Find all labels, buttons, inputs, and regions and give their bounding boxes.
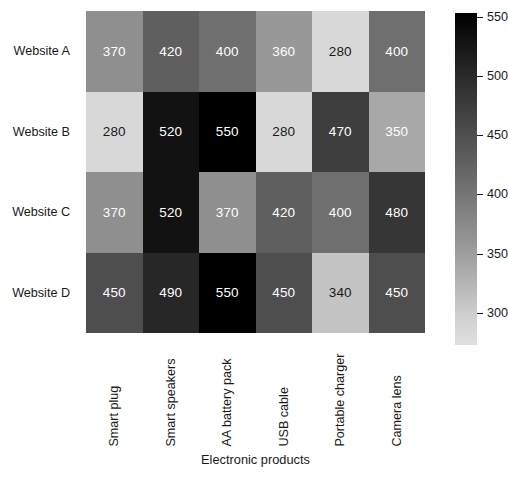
cell-value: 550 <box>216 286 239 300</box>
cell-value: 370 <box>103 206 126 220</box>
cell-value: 350 <box>385 125 408 139</box>
x-tick-label-smart-speakers: Smart speakers <box>164 359 177 447</box>
colorbar-tick-label-350: 350 <box>487 247 508 261</box>
cell-value: 280 <box>103 125 126 139</box>
heatmap-cell: 400 <box>369 11 426 92</box>
heatmap-cell: 490 <box>143 253 200 334</box>
y-axis-tick-labels: Website A Website B Website C Website D <box>0 11 78 333</box>
y-tick-label-website-c: Website C <box>0 172 78 253</box>
x-tick-slot-2: AA battery pack <box>199 337 256 447</box>
colorbar-tick-label-500: 500 <box>487 69 508 83</box>
cell-value: 470 <box>329 125 352 139</box>
x-axis-tick-labels: Smart plug Smart speakers AA battery pac… <box>86 337 425 447</box>
heatmap-cell: 340 <box>312 253 369 334</box>
colorbar-tick-label-450: 450 <box>487 128 508 142</box>
y-tick-label-website-d: Website D <box>0 253 78 334</box>
heatmap-cell: 480 <box>369 172 426 253</box>
cell-value: 280 <box>329 45 352 59</box>
cell-value: 520 <box>159 206 182 220</box>
x-tick-slot-5: Camera lens <box>369 337 426 447</box>
cell-value: 370 <box>103 45 126 59</box>
cell-value: 450 <box>103 286 126 300</box>
cell-value: 400 <box>216 45 239 59</box>
heatmap-cell: 370 <box>86 11 143 92</box>
heatmap-cell: 280 <box>312 11 369 92</box>
heatmap-cell: 400 <box>199 11 256 92</box>
x-tick-slot-1: Smart speakers <box>143 337 200 447</box>
x-tick-slot-4: Portable charger <box>312 337 369 447</box>
heatmap-cell: 370 <box>199 172 256 253</box>
colorbar-tick-label-550: 550 <box>487 10 508 24</box>
heatmap-cell: 360 <box>256 11 313 92</box>
y-tick-label-website-b: Website B <box>0 92 78 173</box>
heatmap-grid: 370 420 400 360 280 400 280 520 550 280 … <box>86 11 425 333</box>
heatmap-cell: 550 <box>199 253 256 334</box>
cell-value: 420 <box>272 206 295 220</box>
colorbar-tick-label-400: 400 <box>487 187 508 201</box>
heatmap-cell: 450 <box>369 253 426 334</box>
x-tick-slot-3: USB cable <box>256 337 313 447</box>
heatmap-cell: 280 <box>256 92 313 173</box>
colorbar: 550 500 450 400 350 300 <box>455 13 477 345</box>
x-axis-title: Electronic products <box>86 452 425 467</box>
cell-value: 450 <box>385 286 408 300</box>
colorbar-gradient <box>455 13 477 345</box>
heatmap-cell: 420 <box>143 11 200 92</box>
heatmap-cell: 350 <box>369 92 426 173</box>
cell-value: 420 <box>159 45 182 59</box>
colorbar-tick-300 <box>477 313 483 314</box>
x-tick-label-aa-battery-pack: AA battery pack <box>221 359 234 447</box>
x-tick-slot-0: Smart plug <box>86 337 143 447</box>
cell-value: 490 <box>159 286 182 300</box>
cell-value: 370 <box>216 206 239 220</box>
heatmap-cell: 470 <box>312 92 369 173</box>
x-tick-label-camera-lens: Camera lens <box>390 376 403 447</box>
colorbar-tick-450 <box>477 135 483 136</box>
cell-value: 400 <box>385 45 408 59</box>
heatmap-cell: 450 <box>86 253 143 334</box>
cell-value: 280 <box>272 125 295 139</box>
heatmap-cell: 420 <box>256 172 313 253</box>
x-tick-label-smart-plug: Smart plug <box>108 386 121 447</box>
cell-value: 480 <box>385 206 408 220</box>
cell-value: 520 <box>159 125 182 139</box>
x-tick-label-usb-cable: USB cable <box>277 387 290 447</box>
cell-value: 450 <box>272 286 295 300</box>
colorbar-tick-400 <box>477 194 483 195</box>
heatmap-cell: 370 <box>86 172 143 253</box>
heatmap-cell: 400 <box>312 172 369 253</box>
heatmap-cell: 280 <box>86 92 143 173</box>
cell-value: 400 <box>329 206 352 220</box>
colorbar-tick-350 <box>477 254 483 255</box>
x-tick-label-portable-charger: Portable charger <box>334 354 347 447</box>
cell-value: 340 <box>329 286 352 300</box>
heatmap-cell: 520 <box>143 92 200 173</box>
heatmap-cell: 520 <box>143 172 200 253</box>
heatmap-cell: 450 <box>256 253 313 334</box>
y-tick-label-website-a: Website A <box>0 11 78 92</box>
colorbar-tick-500 <box>477 76 483 77</box>
heatmap-cell: 550 <box>199 92 256 173</box>
cell-value: 550 <box>216 125 239 139</box>
colorbar-tick-label-300: 300 <box>487 306 508 320</box>
cell-value: 360 <box>272 45 295 59</box>
colorbar-tick-550 <box>477 17 483 18</box>
